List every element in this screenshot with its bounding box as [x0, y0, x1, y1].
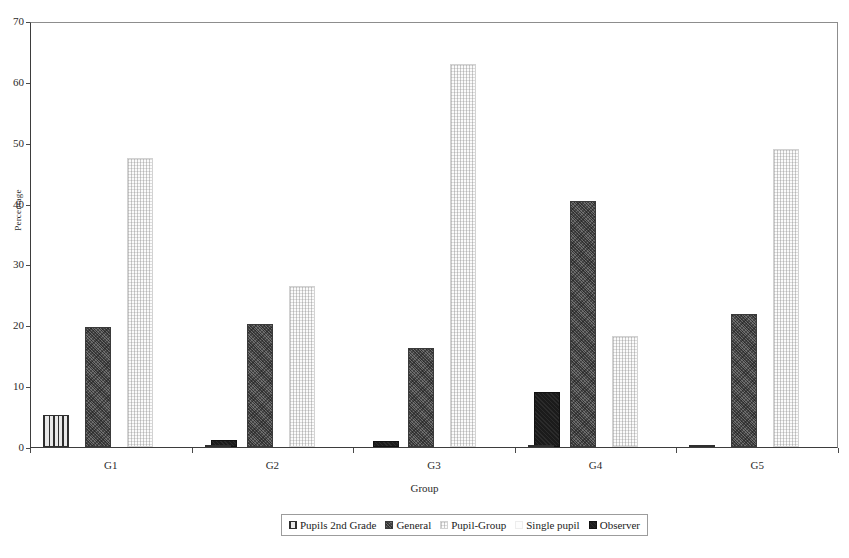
legend-item: Observer [589, 520, 640, 531]
bars-layer [31, 23, 837, 447]
bar-chart: Percentage 010203040506070 G1G2G3G4G5 Gr… [0, 0, 849, 558]
bar [247, 324, 273, 447]
y-tick-label: 40 [2, 199, 24, 210]
legend-label: Observer [600, 520, 640, 531]
x-tick-label: G4 [566, 459, 626, 471]
y-tick-label: 0 [2, 442, 24, 453]
y-tick-label: 60 [2, 77, 24, 88]
plot-area [30, 22, 838, 448]
x-tick-label: G5 [727, 459, 787, 471]
y-tick-label: 10 [2, 381, 24, 392]
bar [43, 415, 69, 447]
legend-item: Pupil-Group [440, 520, 506, 531]
bar [570, 201, 596, 447]
bar [773, 149, 799, 447]
legend-swatch-icon [289, 521, 297, 529]
y-tick-label: 70 [2, 16, 24, 27]
x-tick-mark [676, 448, 677, 453]
legend-label: Pupils 2nd Grade [300, 520, 376, 531]
bar [450, 64, 476, 447]
bar-group [354, 23, 516, 447]
x-tick-mark [515, 448, 516, 453]
y-tick-label: 30 [2, 259, 24, 270]
y-tick-label: 50 [2, 138, 24, 149]
legend-label: General [396, 520, 431, 531]
bar [689, 445, 715, 447]
legend-item: Pupils 2nd Grade [289, 520, 376, 531]
bar [85, 327, 111, 447]
legend-swatch-icon [440, 521, 448, 529]
bar-group [193, 23, 355, 447]
x-tick-label: G2 [242, 459, 302, 471]
legend-label: Pupil-Group [451, 520, 506, 531]
chart-legend: Pupils 2nd GradeGeneralPupil-GroupSingle… [281, 514, 648, 536]
legend-label: Single pupil [526, 520, 579, 531]
bar [289, 286, 315, 447]
bar [528, 445, 554, 447]
legend-item: Single pupil [515, 520, 579, 531]
legend-item: General [385, 520, 431, 531]
legend-swatch-icon [385, 521, 393, 529]
bar [127, 158, 153, 447]
x-tick-label: G3 [404, 459, 464, 471]
x-tick-mark [838, 448, 839, 453]
legend-swatch-icon [515, 521, 523, 529]
bar-group [677, 23, 839, 447]
bar [408, 348, 434, 447]
x-tick-mark [192, 448, 193, 453]
y-axis-title: Percentage [13, 160, 23, 260]
bar [731, 314, 757, 447]
x-tick-mark [353, 448, 354, 453]
x-tick-label: G1 [81, 459, 141, 471]
legend-swatch-icon [589, 521, 597, 529]
bar [612, 336, 638, 447]
bar-group [516, 23, 678, 447]
x-tick-mark [30, 448, 31, 453]
x-axis-title: Group [0, 482, 849, 494]
bar [205, 445, 231, 447]
y-tick-label: 20 [2, 320, 24, 331]
bar-group [31, 23, 193, 447]
